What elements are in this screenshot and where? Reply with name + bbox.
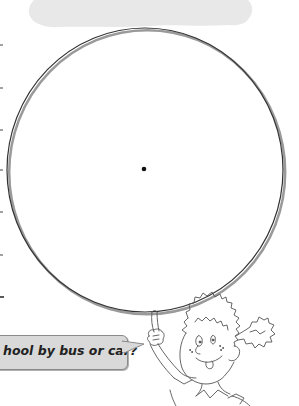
child-illustration-icon	[140, 280, 299, 406]
speech-bubble-text: hool by bus or car?	[3, 343, 137, 358]
center-dot	[142, 167, 147, 172]
speech-bubble: hool by bus or car?	[0, 335, 128, 370]
